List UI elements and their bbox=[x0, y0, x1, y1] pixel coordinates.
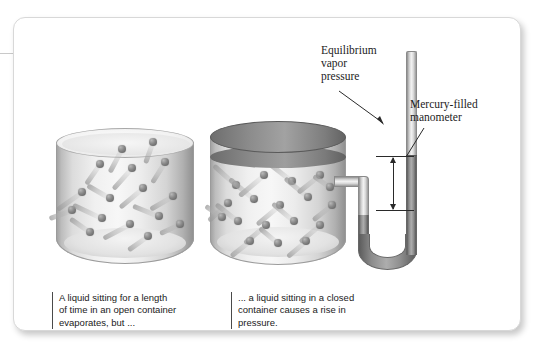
equilibrium-vapor-pressure-label: Equilibrium vapor pressure bbox=[321, 44, 411, 83]
figure-canvas: Equilibrium vapor pressure Mercury-fille… bbox=[0, 0, 539, 350]
manometer-leader-line bbox=[406, 128, 424, 157]
figure-card: Equilibrium vapor pressure Mercury-fille… bbox=[13, 17, 521, 331]
caption-open-container: A liquid sitting for a length of time in… bbox=[52, 292, 219, 329]
evp-leader-arrowhead bbox=[377, 116, 384, 125]
annotation-leaders bbox=[14, 18, 522, 332]
caption-closed-container: ... a liquid sitting in a closed contain… bbox=[231, 292, 398, 329]
evp-leader-line bbox=[339, 91, 383, 123]
mercury-filled-manometer-label: Mercury-filled manometer bbox=[410, 98, 514, 124]
